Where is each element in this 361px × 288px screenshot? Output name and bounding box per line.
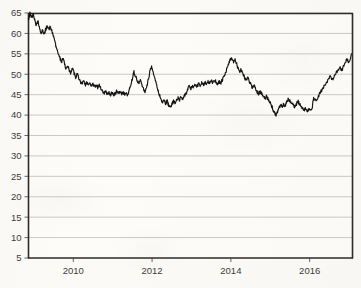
y-axis-tick-label: 10 bbox=[11, 232, 22, 243]
x-axis-tick-label: 2012 bbox=[142, 265, 163, 276]
y-axis-tick-label: 60 bbox=[11, 28, 22, 39]
y-axis-tick-label: 15 bbox=[11, 212, 22, 223]
chart-page: 5101520253035404550556065 20102012201420… bbox=[0, 0, 361, 288]
x-axis-tick-label: 2014 bbox=[220, 265, 241, 276]
y-axis-tick-label: 40 bbox=[11, 109, 22, 120]
line-chart: 5101520253035404550556065 20102012201420… bbox=[0, 0, 361, 288]
x-axis-tick-label: 2010 bbox=[63, 265, 84, 276]
y-axis-tick-label: 25 bbox=[11, 171, 22, 182]
y-axis-tick-label: 65 bbox=[11, 7, 22, 18]
y-axis-tick-labels: 5101520253035404550556065 bbox=[11, 7, 22, 263]
y-axis-tick-label: 55 bbox=[11, 48, 22, 59]
y-axis-tick-label: 35 bbox=[11, 130, 22, 141]
x-axis-tick-labels: 2010201220142016 bbox=[63, 265, 321, 276]
x-axis-tick-label: 2016 bbox=[299, 265, 320, 276]
y-axis-tick-label: 50 bbox=[11, 69, 22, 80]
y-axis-tick-label: 45 bbox=[11, 89, 22, 100]
y-axis-tick-label: 30 bbox=[11, 150, 22, 161]
y-axis-tick-label: 5 bbox=[16, 252, 21, 263]
y-tick-marks bbox=[25, 13, 29, 258]
y-axis-tick-label: 20 bbox=[11, 191, 22, 202]
